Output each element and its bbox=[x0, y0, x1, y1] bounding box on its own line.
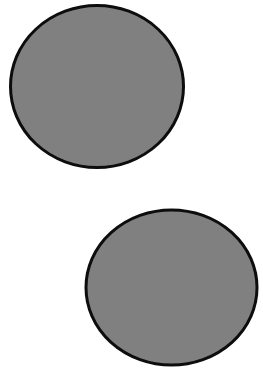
image-canvas bbox=[0, 0, 263, 371]
circle-top-left bbox=[11, 6, 184, 168]
shapes-scene bbox=[0, 0, 263, 371]
circle-bottom-right bbox=[86, 210, 257, 365]
